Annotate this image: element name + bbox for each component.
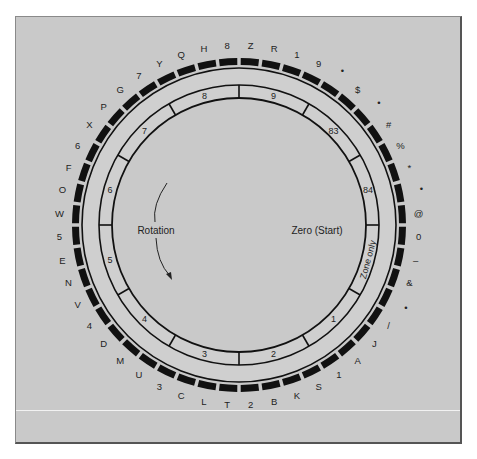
character-label: E [59, 255, 65, 266]
zero-start-label: Zero (Start) [291, 225, 342, 236]
character-label: 1 [294, 49, 299, 60]
punch-bar [72, 205, 80, 223]
punch-bar [398, 205, 406, 223]
character-label: 0 [416, 231, 421, 242]
punch-bar [262, 380, 281, 390]
punch-bar [74, 183, 84, 202]
character-label: H [200, 43, 207, 54]
character-label: – [413, 255, 419, 266]
character-label: 3 [157, 381, 162, 392]
zone-label: 6 [108, 185, 113, 195]
character-label: • [420, 183, 423, 194]
character-label: X [86, 119, 93, 130]
character-label: • [377, 97, 380, 108]
character-label: L [201, 396, 206, 407]
character-label: 5 [57, 231, 62, 242]
character-label: W [55, 208, 64, 219]
character-label: F [66, 162, 72, 173]
zone-label: 9 [271, 91, 276, 101]
character-label: O [59, 184, 66, 195]
character-label: U [136, 369, 143, 380]
zone-label: 3 [202, 349, 207, 359]
punch-bar [197, 60, 216, 70]
character-label: • [404, 302, 407, 313]
character-label: 6 [75, 140, 80, 151]
character-label: & [406, 277, 413, 288]
character-label: Q [177, 49, 184, 60]
character-label: A [355, 355, 362, 366]
punch-bar [197, 380, 216, 390]
zone-label: 2 [271, 349, 276, 359]
character-label: # [386, 119, 392, 130]
zone-label: 8 [202, 91, 207, 101]
zone-ring: 98384Zone only12345678 [82, 68, 396, 382]
character-label: C [178, 390, 185, 401]
character-label: N [65, 277, 72, 288]
zone-label: 84 [363, 185, 373, 195]
punch-bar [394, 248, 404, 267]
character-label: J [372, 338, 377, 349]
character-label: 4 [87, 320, 92, 331]
character-label: 2 [248, 399, 253, 410]
punch-bar [219, 384, 237, 392]
character-label: 7 [136, 70, 141, 81]
character-label: M [116, 355, 124, 366]
character-label: D [100, 338, 107, 349]
punch-bar [74, 248, 84, 267]
zone-label: 5 [108, 255, 113, 265]
punch-bar [241, 58, 259, 66]
character-label: @ [414, 208, 424, 219]
punch-bar [398, 227, 406, 245]
character-label: T [224, 399, 230, 410]
punch-bar [72, 227, 80, 245]
character-label: B [271, 396, 277, 407]
character-label: Y [156, 58, 163, 69]
character-label: % [396, 140, 405, 151]
zone-label: 7 [142, 126, 147, 136]
punch-bar [262, 60, 281, 70]
character-label: • [341, 65, 344, 76]
character-label: Z [248, 40, 254, 51]
character-label: S [315, 381, 321, 392]
character-label: * [408, 162, 412, 173]
punch-bar [394, 183, 404, 202]
code-wheel: 01112N01112N01112N01112N01112N01112N0111… [0, 0, 477, 459]
punch-bar [241, 384, 259, 392]
character-label: R [271, 43, 278, 54]
character-label: V [74, 299, 81, 310]
zone-label: 83 [328, 126, 338, 136]
character-label: G [117, 84, 124, 95]
character-label: K [294, 390, 301, 401]
punch-bar [219, 58, 237, 66]
character-label: 1 [336, 369, 341, 380]
character-label: 9 [316, 58, 321, 69]
zone-label: 1 [331, 314, 336, 324]
character-label: 8 [225, 40, 230, 51]
character-label: $ [355, 84, 361, 95]
character-label: P [100, 101, 106, 112]
rotation-label: Rotation [137, 225, 174, 236]
zone-label: 4 [142, 314, 147, 324]
character-label: / [387, 320, 390, 331]
